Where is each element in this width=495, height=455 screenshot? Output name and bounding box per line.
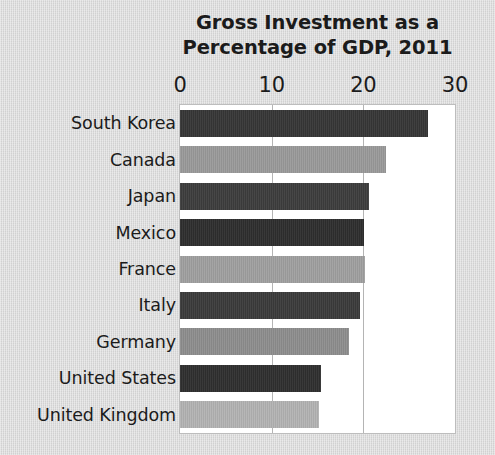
- y-label-united-kingdom: United Kingdom: [0, 405, 176, 425]
- bar-united-kingdom: [180, 401, 319, 428]
- y-label-france: France: [0, 259, 176, 279]
- plot-area: [180, 105, 455, 433]
- bar-united-states: [180, 365, 321, 392]
- x-tick-label-0: 0: [173, 73, 186, 97]
- bar-france: [180, 256, 365, 283]
- chart-page: Gross Investment as a Percentage of GDP,…: [0, 0, 495, 455]
- y-label-south-korea: South Korea: [0, 113, 176, 133]
- bar-canada: [180, 146, 386, 173]
- y-label-canada: Canada: [0, 150, 176, 170]
- bar-south-korea: [180, 110, 428, 137]
- x-tick-label-30: 30: [442, 73, 468, 97]
- y-label-mexico: Mexico: [0, 223, 176, 243]
- bar-japan: [180, 183, 369, 210]
- y-axis-category-labels: South KoreaCanadaJapanMexicoFranceItalyG…: [0, 105, 176, 433]
- bar-germany: [180, 328, 349, 355]
- chart-title: Gross Investment as a Percentage of GDP,…: [150, 10, 485, 60]
- x-axis-tick-labels: 0102030: [0, 73, 495, 103]
- y-label-united-states: United States: [0, 368, 176, 388]
- x-tick-label-20: 20: [350, 73, 376, 97]
- bar-italy: [180, 292, 360, 319]
- x-tick-label-10: 10: [258, 73, 284, 97]
- y-label-germany: Germany: [0, 332, 176, 352]
- y-label-italy: Italy: [0, 295, 176, 315]
- y-label-japan: Japan: [0, 186, 176, 206]
- bar-mexico: [180, 219, 364, 246]
